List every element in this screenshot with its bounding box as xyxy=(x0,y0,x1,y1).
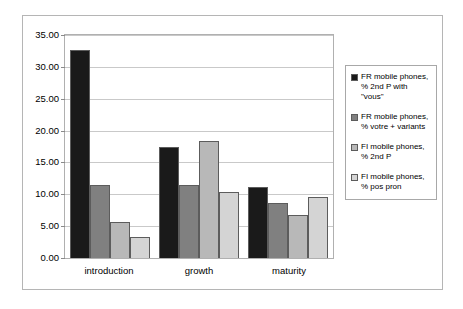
legend-item-label: FI mobile phones, % pos pron xyxy=(361,172,425,192)
legend-swatch-icon xyxy=(351,114,358,121)
bar-group xyxy=(65,35,154,258)
bar xyxy=(288,215,308,258)
bar-group xyxy=(244,35,333,258)
chart-legend: FR mobile phones, % 2nd P with "vous"FR … xyxy=(345,65,437,200)
x-axis-labels: introductiongrowthmaturity xyxy=(64,265,334,276)
legend-item: FR mobile phones, % 2nd P with "vous" xyxy=(351,72,431,102)
y-axis-tick-label: 25.00 xyxy=(35,94,59,104)
bar xyxy=(90,185,110,258)
bar-series-layer xyxy=(65,35,333,258)
y-axis-tick-label: 35.00 xyxy=(35,30,59,40)
bar xyxy=(199,141,219,258)
legend-swatch-icon xyxy=(351,144,358,151)
plot-area: 0.005.0010.0015.0020.0025.0030.0035.00 xyxy=(64,34,334,259)
legend-item: FI mobile phones, % pos pron xyxy=(351,172,431,192)
bar xyxy=(110,222,130,258)
bar-group xyxy=(154,35,243,258)
bar xyxy=(268,203,288,258)
bar xyxy=(130,237,150,258)
bar xyxy=(179,185,199,258)
legend-swatch-icon xyxy=(351,74,358,81)
y-axis-tick-label: 15.00 xyxy=(35,158,59,168)
legend-swatch-icon xyxy=(351,174,358,181)
y-axis-tick-mark xyxy=(61,258,65,259)
y-axis-tick-label: 0.00 xyxy=(41,253,60,263)
legend-item: FR mobile phones, % votre + variants xyxy=(351,112,431,132)
bar xyxy=(248,187,268,258)
y-axis-tick-label: 10.00 xyxy=(35,190,59,200)
legend-item: FI mobile phones, % 2nd P xyxy=(351,142,431,162)
chart-frame: 0.005.0010.0015.0020.0025.0030.0035.00 i… xyxy=(22,15,443,290)
y-axis-tick-label: 20.00 xyxy=(35,126,59,136)
bar xyxy=(219,192,239,258)
y-axis-tick-label: 30.00 xyxy=(35,62,59,72)
x-axis-category-label: maturity xyxy=(244,265,334,276)
legend-item-label: FI mobile phones, % 2nd P xyxy=(361,142,425,162)
bar xyxy=(70,50,90,258)
x-axis-category-label: growth xyxy=(154,265,244,276)
bar xyxy=(159,147,179,258)
bar xyxy=(308,197,328,258)
legend-item-label: FR mobile phones, % votre + variants xyxy=(361,112,428,132)
x-axis-category-label: introduction xyxy=(64,265,154,276)
y-axis-tick-label: 5.00 xyxy=(41,221,60,231)
legend-item-label: FR mobile phones, % 2nd P with "vous" xyxy=(361,72,431,102)
